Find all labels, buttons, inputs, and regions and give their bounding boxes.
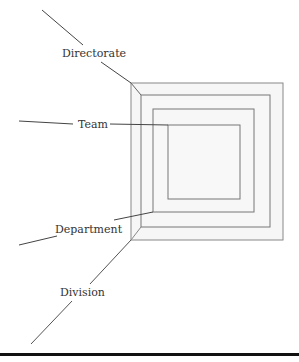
team-label: Team	[78, 118, 109, 131]
department-leader-left	[19, 236, 57, 245]
nested-squares	[131, 83, 283, 240]
directorate-leader-upper	[42, 10, 83, 45]
team-leader-left	[19, 121, 73, 124]
bottom-rule	[0, 353, 299, 356]
department-label: Department	[55, 223, 123, 236]
division-leader-lower	[31, 301, 72, 344]
division-label: Division	[60, 286, 105, 299]
division-leader-upper	[90, 240, 131, 284]
nested-org-diagram: Directorate Team Department Division	[0, 0, 299, 362]
team-square	[168, 125, 240, 199]
directorate-label: Directorate	[62, 47, 126, 60]
directorate-leader-lower	[101, 62, 131, 83]
